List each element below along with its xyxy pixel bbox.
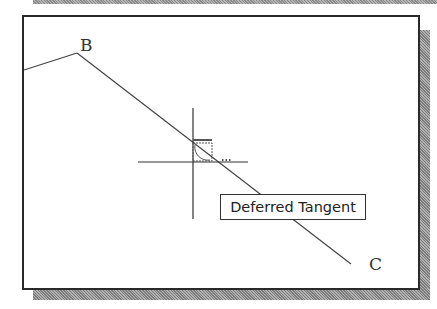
line-segment-left <box>24 53 77 70</box>
deferred-tangent-icon <box>193 140 232 161</box>
point-label-c: C <box>369 256 382 273</box>
polyline <box>24 53 351 264</box>
line-segment-b-c <box>77 53 351 264</box>
snap-tooltip: Deferred Tangent <box>220 194 366 220</box>
point-label-b: B <box>80 37 93 54</box>
